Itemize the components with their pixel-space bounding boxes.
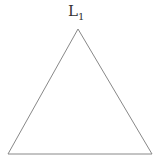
label-main: L	[68, 2, 78, 20]
triangle	[8, 29, 152, 154]
triangle-diagram	[0, 0, 161, 164]
label-subscript: 1	[78, 11, 84, 22]
vertex-label: L1	[68, 2, 84, 22]
